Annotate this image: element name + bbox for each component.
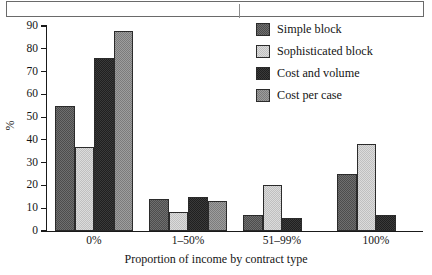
legend-swatch [256, 89, 270, 102]
bar [357, 144, 377, 231]
legend-swatch [256, 23, 270, 36]
y-axis-tick-label: 10 [12, 202, 38, 214]
legend-label: Cost and volume [277, 65, 360, 81]
bar [263, 185, 283, 231]
y-axis-tick-label: 20 [12, 179, 38, 191]
y-axis-tick-label-text: 40 [14, 134, 38, 146]
x-axis-tick-label: 0% [59, 234, 129, 247]
y-axis-tick-label-text: 50 [14, 111, 38, 123]
y-axis-tick-label: 50 [12, 111, 38, 123]
bar [94, 58, 114, 231]
y-axis-tick-label: 90 [12, 20, 38, 32]
bar [114, 31, 134, 231]
caption-box-divider [239, 4, 240, 18]
y-axis-tick-label-text: 20 [14, 179, 38, 191]
x-axis-tick-label: 100% [341, 234, 411, 247]
legend-swatch [256, 45, 270, 58]
y-axis-tick-label: 80 [12, 43, 38, 55]
y-axis-tick-label: 0 [12, 225, 38, 237]
y-axis-tick-label-text: 60 [14, 88, 38, 100]
bar [243, 215, 263, 231]
bar [149, 199, 169, 231]
bar-group [55, 26, 133, 231]
y-axis-tick-label: 30 [12, 157, 38, 169]
x-axis-line [46, 231, 423, 232]
bar-chart-figure: % 0102030405060708090 0%1–50%51–99%100% … [0, 0, 432, 275]
y-axis-tick-label-text: 30 [14, 157, 38, 169]
bar [376, 215, 396, 231]
y-axis-tick-label-text: 10 [14, 202, 38, 214]
bar [282, 218, 302, 231]
legend-label: Sophisticated block [277, 43, 373, 59]
x-axis-title: Proportion of income by contract type [0, 252, 432, 267]
y-axis-tick-label: 60 [12, 88, 38, 100]
y-axis-tick-label: 40 [12, 134, 38, 146]
bar [75, 147, 95, 231]
bar-group [149, 26, 227, 231]
y-axis-tick-label-text: 70 [14, 66, 38, 78]
bar [55, 106, 75, 231]
x-axis-tick-label: 51–99% [247, 234, 317, 247]
y-axis-tick-label-text: 80 [14, 43, 38, 55]
legend-swatch [256, 67, 270, 80]
y-axis-tick-label: 70 [12, 66, 38, 78]
legend-label: Simple block [277, 21, 342, 37]
bar [169, 212, 189, 231]
y-axis-tick-label-text: 90 [14, 20, 38, 32]
y-axis-tick-label-text: 0 [14, 225, 38, 237]
legend-label: Cost per case [277, 87, 342, 103]
bar [188, 197, 208, 231]
bar [337, 174, 357, 231]
caption-box [6, 1, 424, 17]
x-axis-tick-label: 1–50% [153, 234, 223, 247]
bar [208, 201, 228, 231]
